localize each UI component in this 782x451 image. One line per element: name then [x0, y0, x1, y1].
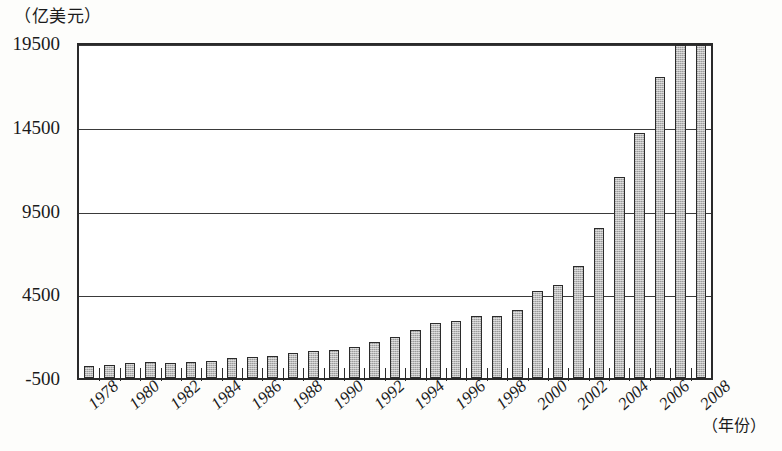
x-axis-tick: [466, 368, 467, 381]
x-axis-tick: [242, 368, 243, 381]
x-axis-tick-label: 2006: [656, 377, 693, 412]
x-axis-tick-label: 1994: [411, 377, 448, 412]
y-axis-tick-label: 9500: [0, 201, 60, 220]
y-axis-tick-label: -500: [0, 369, 60, 388]
bar: [553, 285, 564, 378]
x-axis-tick: [528, 368, 529, 381]
bar: [532, 291, 543, 378]
x-axis-tick: [99, 368, 100, 381]
bar: [614, 177, 625, 378]
y-axis-tick-label: 4500: [0, 285, 60, 304]
x-axis-tick-label: 1986: [248, 377, 285, 412]
x-axis-tick: [568, 368, 569, 381]
x-axis-tick-label: 2008: [697, 377, 734, 412]
x-axis-tick-label: 1982: [167, 377, 204, 412]
x-axis-tick: [650, 368, 651, 381]
x-axis-tick: [405, 368, 406, 381]
x-axis-tick: [426, 368, 427, 381]
x-axis-tick: [140, 368, 141, 381]
x-axis-tick: [324, 368, 325, 381]
x-axis-tick: [303, 368, 304, 381]
x-axis-tick-label: 1990: [330, 377, 367, 412]
x-axis-tick-label: 1996: [452, 377, 489, 412]
x-axis-tick-label: 2004: [615, 377, 652, 412]
x-axis-tick: [548, 368, 549, 381]
x-axis-tick: [161, 368, 162, 381]
bar-chart: （亿美元） 195001450095004500-500 19781980198…: [0, 0, 782, 451]
bar: [655, 77, 666, 378]
x-axis-tick: [691, 368, 692, 381]
x-axis-tick: [181, 368, 182, 381]
x-axis-tick-label: 1998: [493, 377, 530, 412]
bar: [675, 45, 686, 378]
x-axis-tick-label: 1988: [289, 377, 326, 412]
bar: [573, 266, 584, 378]
x-axis-tick-label: 1980: [126, 377, 163, 412]
x-axis-tick: [344, 368, 345, 381]
bar: [696, 45, 707, 378]
x-axis-tick: [201, 368, 202, 381]
x-axis-tick-label: 2000: [534, 377, 571, 412]
y-axis-tick-label: 19500: [0, 34, 60, 53]
x-axis-tick-label: 1978: [85, 377, 122, 412]
x-axis-tick: [629, 368, 630, 381]
x-axis-tick: [446, 368, 447, 381]
x-axis-tick-label: 1984: [208, 377, 245, 412]
x-axis-tick-label: 2002: [574, 377, 611, 412]
bar: [634, 133, 645, 378]
x-axis-tick: [609, 368, 610, 381]
x-axis-tick: [385, 368, 386, 381]
x-axis-tick: [589, 368, 590, 381]
bar: [594, 228, 605, 378]
y-axis-unit-label: （亿美元）: [14, 2, 102, 27]
bars-layer: [79, 45, 711, 378]
x-axis-tick: [487, 368, 488, 381]
x-axis-tick: [364, 368, 365, 381]
x-axis-title: （年份）: [702, 412, 766, 436]
x-axis-tick: [222, 368, 223, 381]
x-axis-tick: [120, 368, 121, 381]
x-axis-tick: [670, 368, 671, 381]
x-axis-tick: [262, 368, 263, 381]
x-axis-tick-label: 1992: [371, 377, 408, 412]
x-axis-tick: [283, 368, 284, 381]
x-axis-tick: [507, 368, 508, 381]
y-axis-tick-label: 14500: [0, 117, 60, 136]
